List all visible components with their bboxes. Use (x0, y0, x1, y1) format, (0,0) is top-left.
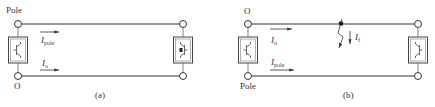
current-label-io: Io (271, 35, 277, 48)
o-label: O (244, 6, 251, 16)
o-label: O (14, 81, 21, 91)
panel-a (9, 21, 193, 80)
terminal-node (15, 73, 22, 80)
left-converter-icon (239, 37, 258, 63)
caption-a: (a) (95, 90, 105, 100)
panel-b (239, 19, 428, 80)
terminal-node (15, 21, 22, 28)
right-converter-icon (174, 37, 193, 63)
pole-label: Pole (240, 81, 256, 91)
fault-current-label: If (355, 32, 360, 45)
current-label-io: Io (42, 58, 48, 71)
terminal-node (245, 21, 252, 28)
pole-label: Pole (6, 5, 22, 15)
terminal-node (180, 21, 187, 28)
terminal-node (415, 21, 422, 28)
terminal-node (415, 73, 422, 80)
terminal-node (245, 73, 252, 80)
caption-b: (b) (343, 90, 354, 100)
current-label-ipole: Ipole (41, 35, 54, 48)
left-converter-icon (9, 37, 28, 63)
terminal-node (180, 73, 187, 80)
current-label-ipole: Ipole (271, 57, 284, 70)
right-converter-icon (409, 37, 428, 63)
diagram-canvas (0, 0, 435, 107)
